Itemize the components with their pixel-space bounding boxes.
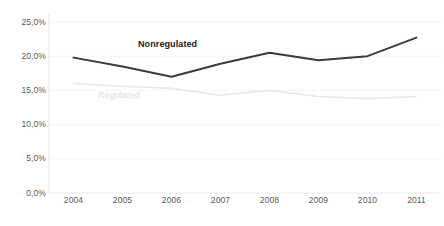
series-label-regulated: Regulated <box>98 91 140 100</box>
x-axis-tick-label: 2011 <box>407 196 426 205</box>
y-axis-tick-label: 10,0% <box>2 120 46 129</box>
y-axis-tick-label: 20,0% <box>2 52 46 61</box>
x-axis-tick-label: 2007 <box>211 196 230 205</box>
x-axis-tick-label: 2005 <box>113 196 132 205</box>
y-axis-labels: 0,0%5,0%10,0%15,0%20,0%25,0% <box>0 0 46 226</box>
x-axis-tick-label: 2004 <box>64 196 83 205</box>
y-axis-tick-label: 5,0% <box>2 154 46 163</box>
x-axis-tick-label: 2009 <box>309 196 328 205</box>
x-axis-tick-label: 2006 <box>162 196 181 205</box>
series-label-nonregulated: Nonregulated <box>138 40 197 49</box>
x-axis-tick-label: 2008 <box>260 196 279 205</box>
y-axis-tick-label: 25,0% <box>2 18 46 27</box>
series-line-nonregulated <box>74 38 417 77</box>
x-axis-tick-label: 2010 <box>358 196 377 205</box>
gridlines <box>49 22 441 193</box>
axis-lines <box>49 14 441 193</box>
x-axis-labels: 20042005200620072008200920102011 <box>49 196 441 210</box>
y-axis-tick-label: 0,0% <box>2 189 46 198</box>
y-axis-tick-label: 15,0% <box>2 86 46 95</box>
line-chart: 0,0%5,0%10,0%15,0%20,0%25,0% 20042005200… <box>0 0 444 226</box>
plot-area <box>0 0 444 226</box>
